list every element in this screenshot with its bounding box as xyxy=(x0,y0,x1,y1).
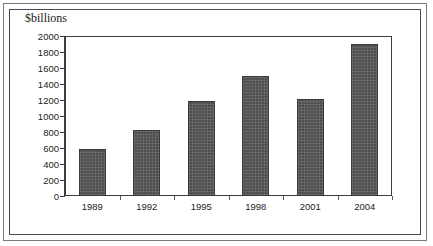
y-axis-tick-label: 600 xyxy=(43,143,59,154)
x-axis-tick-label: 1989 xyxy=(82,201,103,212)
y-axis-tick-mark xyxy=(60,148,64,149)
x-axis-tick-mark xyxy=(283,196,284,200)
x-axis-tick-labels: 198919921995199820012004 xyxy=(65,201,392,217)
y-axis-tick-mark xyxy=(60,100,64,101)
x-axis-tick-label: 1995 xyxy=(191,201,212,212)
x-axis-tick-label: 2004 xyxy=(354,201,375,212)
x-axis-tick-mark xyxy=(120,196,121,200)
x-axis-tick-label: 2001 xyxy=(300,201,321,212)
y-axis-tick-label: 400 xyxy=(43,159,59,170)
x-axis-tick-mark xyxy=(392,196,393,200)
y-axis-tick-label: 1800 xyxy=(38,47,59,58)
y-axis-tick-label: 1200 xyxy=(38,95,59,106)
x-axis-tick-mark xyxy=(338,196,339,200)
y-axis-tick-label: 800 xyxy=(43,127,59,138)
x-axis-tick-label: 1998 xyxy=(245,201,266,212)
y-axis-tick-label: 1600 xyxy=(38,63,59,74)
x-axis-tick-mark xyxy=(174,196,175,200)
bar xyxy=(242,76,269,196)
chart-title: $billions xyxy=(25,11,67,26)
y-axis-tick-mark xyxy=(60,180,64,181)
y-axis-tick-mark xyxy=(60,84,64,85)
y-axis-tick-mark xyxy=(60,52,64,53)
plot-area xyxy=(65,36,392,196)
y-axis-tick-mark xyxy=(60,68,64,69)
y-axis-tick-label: 0 xyxy=(54,191,59,202)
x-axis-tick-label: 1992 xyxy=(136,201,157,212)
y-axis-tick-label: 2000 xyxy=(38,31,59,42)
y-axis-line xyxy=(64,36,65,197)
bar xyxy=(79,149,106,196)
bar xyxy=(188,101,215,196)
y-axis-tick-mark xyxy=(60,196,64,197)
y-axis-tick-mark xyxy=(60,164,64,165)
y-axis-tick-label: 1400 xyxy=(38,79,59,90)
x-axis-tick-mark xyxy=(229,196,230,200)
y-axis-tick-label: 1000 xyxy=(38,111,59,122)
y-axis-tick-mark xyxy=(60,132,64,133)
bar xyxy=(133,130,160,196)
bar xyxy=(351,44,378,196)
bar-chart: $billions 200018001600140012001000800600… xyxy=(0,0,433,246)
y-axis-tick-labels: 2000180016001400120010008006004002000 xyxy=(14,36,59,196)
y-axis-tick-mark xyxy=(60,116,64,117)
y-axis-tick-label: 200 xyxy=(43,175,59,186)
bar xyxy=(297,99,324,196)
y-axis-tick-mark xyxy=(60,36,64,37)
